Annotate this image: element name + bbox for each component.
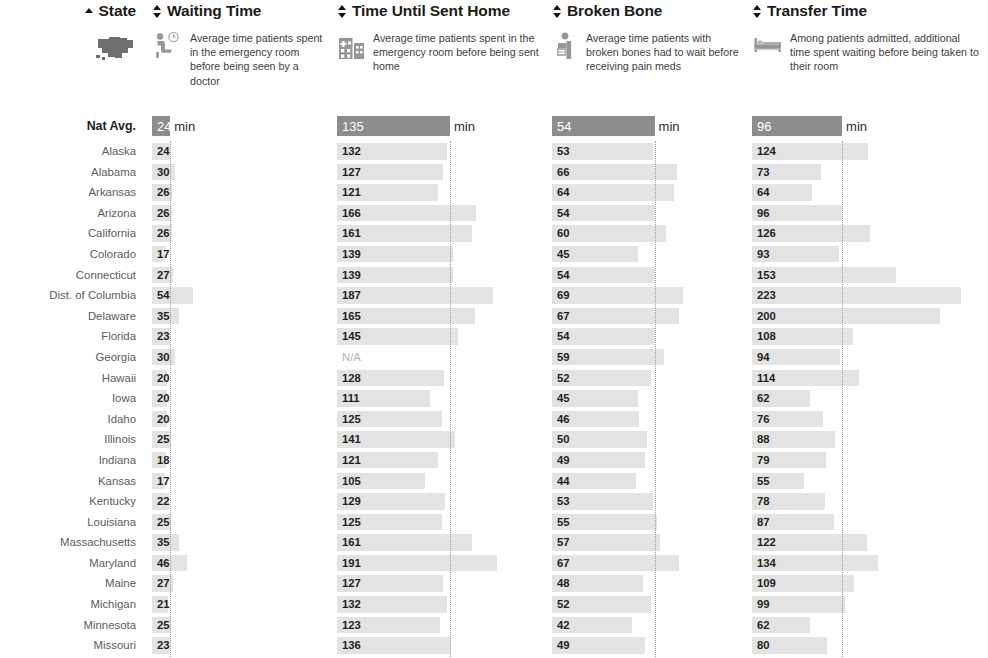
table-row[interactable]: Maine [0,573,148,594]
table-row[interactable]: 78 [748,491,988,512]
table-row[interactable]: 88 [748,429,988,450]
table-row[interactable]: Kentucky [0,491,148,512]
sort-toggle-icon[interactable] [553,4,562,19]
table-row[interactable]: 23 [148,326,333,347]
table-row[interactable]: 50 [548,429,748,450]
table-row[interactable]: Georgia [0,347,148,368]
column-title-transfer-time[interactable]: Transfer Time [748,0,988,22]
table-row[interactable]: 67 [548,306,748,327]
table-row[interactable]: Hawaii [0,368,148,389]
table-row[interactable]: 166 [333,203,548,224]
table-row[interactable]: 20 [148,368,333,389]
table-row[interactable]: 55 [748,471,988,492]
table-row[interactable]: 30 [148,347,333,368]
table-row[interactable]: Delaware [0,306,148,327]
table-row[interactable]: Indiana [0,450,148,471]
table-row[interactable]: 187 [333,285,548,306]
table-row[interactable]: 80 [748,635,988,656]
sort-toggle-icon[interactable] [338,4,347,19]
table-row[interactable]: 66 [548,162,748,183]
column-title-state[interactable]: State [0,0,148,22]
table-row[interactable]: 20 [148,409,333,430]
table-row[interactable]: 161 [333,532,548,553]
column-header-state[interactable]: State [0,0,148,112]
table-row[interactable]: 108 [748,326,988,347]
table-row[interactable]: Idaho [0,409,148,430]
table-row[interactable]: Missouri [0,635,148,656]
table-row[interactable]: 126 [748,223,988,244]
table-row[interactable]: 136 [333,635,548,656]
table-row[interactable]: 30 [148,162,333,183]
table-row[interactable]: Alaska [0,141,148,162]
table-row[interactable]: 64 [548,182,748,203]
table-row[interactable]: 79 [748,450,988,471]
table-row[interactable]: 54 [548,265,748,286]
table-row[interactable]: Massachusetts [0,532,148,553]
table-row[interactable]: Arizona [0,203,148,224]
table-row[interactable]: 25 [148,512,333,533]
table-row[interactable]: 57 [548,532,748,553]
table-row[interactable]: 45 [548,244,748,265]
column-title-waiting-time[interactable]: Waiting Time [148,0,333,22]
table-row[interactable]: 27 [148,573,333,594]
table-row[interactable]: 62 [748,388,988,409]
table-row[interactable]: 94 [748,347,988,368]
sort-toggle-icon[interactable] [753,4,762,19]
column-title-broken-bone[interactable]: Broken Bone [548,0,748,22]
table-row[interactable]: N/A [333,347,548,368]
table-row[interactable]: 76 [748,409,988,430]
table-row[interactable]: 54 [548,203,748,224]
table-row[interactable]: 64 [748,182,988,203]
table-row[interactable]: 52 [548,368,748,389]
table-row[interactable]: 53 [548,141,748,162]
table-row[interactable]: Alabama [0,162,148,183]
table-row[interactable]: 145 [333,326,548,347]
table-row[interactable]: California [0,223,148,244]
table-row[interactable]: 121 [333,182,548,203]
table-row[interactable]: 93 [748,244,988,265]
table-row[interactable]: 132 [333,141,548,162]
table-row[interactable]: 129 [333,491,548,512]
table-row[interactable]: 125 [333,409,548,430]
table-row[interactable]: 109 [748,573,988,594]
table-row[interactable]: 139 [333,244,548,265]
column-header-waiting-time[interactable]: Waiting Time Average time patients spent… [148,0,333,112]
table-row[interactable]: 26 [148,203,333,224]
table-row[interactable]: 60 [548,223,748,244]
table-row[interactable]: 46 [548,409,748,430]
table-row[interactable]: 26 [148,182,333,203]
table-row[interactable]: 73 [748,162,988,183]
table-row[interactable]: 200 [748,306,988,327]
table-row[interactable]: 44 [548,471,748,492]
table-row[interactable]: 23 [148,635,333,656]
table-row[interactable]: 141 [333,429,548,450]
table-row[interactable]: 69 [548,285,748,306]
table-row[interactable]: 18 [148,450,333,471]
table-row[interactable]: 62 [748,615,988,636]
table-row[interactable]: 48 [548,573,748,594]
table-row[interactable]: 125 [333,512,548,533]
table-row[interactable]: Maryland [0,553,148,574]
column-header-broken-bone[interactable]: Broken Bone Average time patients [548,0,748,112]
table-row[interactable]: 42 [548,615,748,636]
table-row[interactable]: 134 [748,553,988,574]
table-row[interactable]: 17 [148,471,333,492]
table-row[interactable]: Colorado [0,244,148,265]
table-row[interactable]: 114 [748,368,988,389]
table-row[interactable]: 127 [333,162,548,183]
column-title-time-until-sent-home[interactable]: Time Until Sent Home [333,0,548,22]
table-row[interactable]: 59 [548,347,748,368]
table-row[interactable]: 52 [548,594,748,615]
table-row[interactable]: 161 [333,223,548,244]
table-row[interactable]: Dist. of Columbia [0,285,148,306]
table-row[interactable]: Arkansas [0,182,148,203]
table-row[interactable]: 191 [333,553,548,574]
column-header-time-until-sent-home[interactable]: Time Until Sent Home [333,0,548,112]
table-row[interactable]: 99 [748,594,988,615]
table-row[interactable]: 20 [148,388,333,409]
table-row[interactable]: Iowa [0,388,148,409]
table-row[interactable]: 105 [333,471,548,492]
table-row[interactable]: Illinois [0,429,148,450]
table-row[interactable]: 53 [548,491,748,512]
table-row[interactable]: Louisiana [0,512,148,533]
